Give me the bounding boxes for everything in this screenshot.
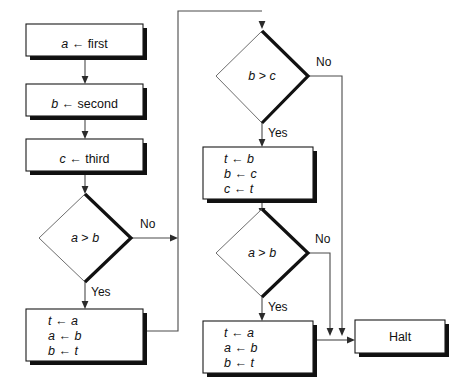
assign-a-label: a ← first: [61, 37, 108, 51]
label-left-ab-yes: Yes: [91, 285, 111, 299]
label-right-ab-yes: Yes: [268, 300, 288, 314]
arrowhead-c-to-decision: [82, 186, 89, 194]
node-assign-a[interactable]: a ← first: [26, 24, 147, 60]
arrowhead-a-to-b: [82, 76, 89, 84]
swap-bc-line3: c ← t: [224, 182, 254, 196]
arrowhead-bc-yes: [259, 139, 266, 147]
node-decision-ab-right[interactable]: a > b: [216, 209, 308, 297]
node-assign-c[interactable]: c ← third: [26, 139, 147, 175]
decision-bc-label: b > c: [248, 69, 276, 83]
swap-left-line1: t ← a: [48, 314, 78, 328]
arrowhead-b-to-c: [82, 131, 89, 139]
swap-left-face: [26, 309, 143, 361]
label-left-ab-no: No: [140, 217, 156, 231]
swap-left-line3: b ← t: [48, 344, 78, 358]
swap-right-line2: a ← b: [224, 341, 257, 355]
arrowhead-right-yes: [259, 313, 266, 321]
arrowhead-into-bc-decision: [259, 21, 266, 29]
swap-bc-line1: t ← b: [224, 152, 254, 166]
decision-ab-left-label: a > b: [71, 231, 99, 245]
swap-left-line2: a ← b: [48, 329, 81, 343]
arrowhead-left-no: [170, 235, 178, 242]
node-decision-ab-left[interactable]: a > b: [39, 194, 131, 282]
decision-ab-right-label: a > b: [248, 246, 276, 260]
node-swap-bc[interactable]: t ← b b ← c c ← t: [203, 147, 317, 203]
node-assign-b[interactable]: b ← second: [26, 84, 147, 120]
node-halt[interactable]: Halt: [355, 320, 449, 357]
label-bc-no: No: [316, 55, 332, 69]
swap-bc-face: [203, 147, 313, 199]
flowchart-svg: a ← first b ← second c ← third a > b No …: [0, 0, 461, 378]
arrowhead-to-halt: [347, 337, 355, 344]
node-swap-ab-left[interactable]: t ← a a ← b b ← t: [26, 309, 147, 365]
swap-right-line3: b ← t: [224, 356, 254, 370]
swap-right-line1: t ← a: [224, 326, 254, 340]
swap-right-face: [203, 321, 313, 373]
assign-c-label: c ← third: [59, 152, 109, 166]
label-right-ab-no: No: [315, 232, 331, 246]
assign-b-label: b ← second: [51, 97, 118, 111]
halt-label: Halt: [389, 330, 412, 344]
arrowhead-right-no: [327, 328, 334, 336]
flowchart-canvas: a ← first b ← second c ← third a > b No …: [0, 0, 461, 378]
arrowhead-bc-no: [339, 328, 346, 336]
node-swap-ab-right[interactable]: t ← a a ← b b ← t: [203, 321, 317, 377]
label-bc-yes: Yes: [268, 126, 288, 140]
swap-bc-line2: b ← c: [224, 167, 257, 181]
node-decision-bc[interactable]: b > c: [216, 31, 308, 123]
connector-right-no-to-halt: [308, 253, 330, 330]
arrowhead-left-yes: [82, 301, 89, 309]
